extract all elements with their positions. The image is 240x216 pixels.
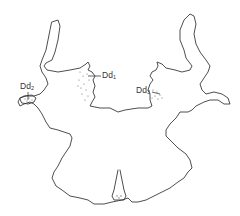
- dd2-stipple: [24, 97, 32, 101]
- center-stipple: [116, 195, 121, 198]
- dd3-leader-line: [152, 92, 160, 94]
- center-detail-outline: [112, 170, 126, 200]
- dd1-stipple: [77, 71, 89, 100]
- blot-outline: [18, 14, 230, 204]
- dd3-stipple: [151, 89, 162, 99]
- inkblot-outline-diagram: [0, 0, 240, 216]
- label-dd3: Dd3: [136, 86, 150, 96]
- label-dd2: Dd2: [20, 82, 34, 92]
- label-dd1: Dd1: [102, 71, 116, 81]
